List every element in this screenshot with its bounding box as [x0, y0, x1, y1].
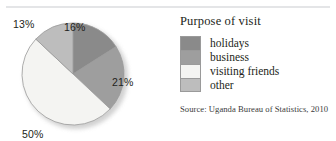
top-divider — [6, 6, 330, 8]
source-note: Source: Uganda Bureau of Statistics, 201… — [180, 104, 328, 114]
legend-swatch-visiting-friends — [180, 64, 201, 78]
legend-item-label: business — [210, 51, 249, 63]
legend-swatch-holidays — [180, 36, 201, 50]
legend-item-label: visiting friends — [210, 65, 279, 77]
legend-item-other: other — [180, 78, 336, 92]
legend-item-business: business — [180, 50, 336, 64]
pie-chart-area: 13% 16% 21% 50% — [0, 10, 168, 141]
legend-item-holidays: holidays — [180, 36, 336, 50]
legend-swatch-business — [180, 50, 201, 64]
legend-item-visiting-friends: visiting friends — [180, 64, 336, 78]
legend-swatch-other — [180, 78, 201, 92]
slice-label-other: 13% — [13, 18, 34, 30]
slice-label-holidays: 16% — [64, 21, 85, 33]
legend-item-label: other — [210, 79, 234, 91]
pie-slices — [21, 22, 125, 126]
legend-items: holidaysbusinessvisiting friendsother — [180, 36, 336, 92]
legend: Purpose of visit holidaysbusinessvisitin… — [180, 14, 336, 92]
pie-chart-figure: 13% 16% 21% 50% Purpose of visit holiday… — [0, 0, 336, 141]
legend-item-label: holidays — [210, 37, 249, 49]
slice-label-business: 21% — [112, 76, 133, 88]
slice-label-visiting-friends: 50% — [22, 128, 43, 140]
legend-title: Purpose of visit — [180, 14, 336, 29]
